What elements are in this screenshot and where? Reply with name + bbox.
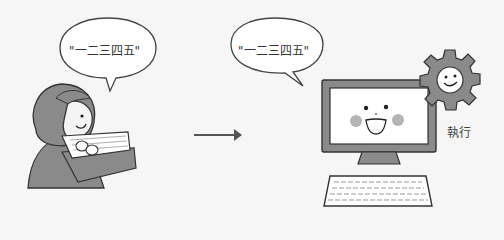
execute-label: 執行	[447, 123, 471, 140]
computer-keyboard-icon	[322, 174, 434, 210]
computer-bubble-text: "一二三四五"	[238, 41, 309, 58]
user-bubble-text: "一二三四五"	[69, 41, 140, 58]
gear-icon	[418, 48, 482, 112]
user-keyboard-icon	[58, 128, 138, 184]
arrow-right-icon	[194, 128, 244, 142]
